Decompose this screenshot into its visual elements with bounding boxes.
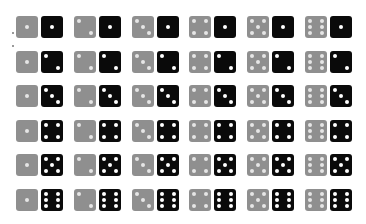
black-die-3 <box>157 85 179 107</box>
pip-icon <box>166 25 170 29</box>
pip-icon <box>141 129 145 133</box>
pip-icon <box>77 192 81 196</box>
pip-icon <box>56 157 60 161</box>
gray-die-4 <box>189 154 211 176</box>
pip-icon <box>114 192 118 196</box>
gray-die-1 <box>16 120 38 142</box>
black-die-1 <box>214 16 236 38</box>
pip-icon <box>281 94 285 98</box>
pip-icon <box>217 157 221 161</box>
pip-icon <box>250 123 254 127</box>
dice-pair <box>74 16 122 38</box>
gray-die-5 <box>247 16 269 38</box>
dice-pair <box>132 154 180 176</box>
pip-icon <box>114 100 118 104</box>
gray-die-3 <box>132 120 154 142</box>
pip-icon <box>160 169 164 173</box>
pip-icon <box>320 192 324 196</box>
pip-icon <box>223 163 227 167</box>
pip-icon <box>204 31 208 35</box>
black-die-6 <box>214 189 236 211</box>
pip-icon <box>172 123 176 127</box>
pip-icon <box>102 157 106 161</box>
pip-icon <box>44 198 48 202</box>
pip-icon <box>160 135 164 139</box>
pip-icon <box>56 123 60 127</box>
pip-icon <box>256 60 260 64</box>
pip-icon <box>308 100 312 104</box>
pip-icon <box>345 192 349 196</box>
pip-icon <box>160 192 164 196</box>
gray-die-2 <box>74 51 96 73</box>
gray-die-6 <box>305 154 327 176</box>
pip-icon <box>25 198 29 202</box>
gray-die-1 <box>16 154 38 176</box>
dice-pair <box>132 51 180 73</box>
pip-icon <box>339 94 343 98</box>
pip-icon <box>102 135 106 139</box>
pip-icon <box>287 198 291 202</box>
pip-icon <box>320 19 324 23</box>
gray-die-1 <box>16 16 38 38</box>
dice-pair <box>74 120 122 142</box>
pip-icon <box>108 25 112 29</box>
black-die-5 <box>272 154 294 176</box>
black-die-5 <box>157 154 179 176</box>
pip-icon <box>287 123 291 127</box>
pip-icon <box>287 204 291 208</box>
gray-die-6 <box>305 16 327 38</box>
pip-icon <box>44 135 48 139</box>
pip-icon <box>333 54 337 58</box>
pip-icon <box>287 100 291 104</box>
pip-icon <box>102 123 106 127</box>
pip-icon <box>147 100 151 104</box>
pip-icon <box>333 135 337 139</box>
pip-icon <box>114 123 118 127</box>
pip-icon <box>25 129 29 133</box>
pip-icon <box>192 66 196 70</box>
dice-pair <box>305 16 353 38</box>
pip-icon <box>204 169 208 173</box>
pip-icon <box>160 198 164 202</box>
pip-icon <box>320 157 324 161</box>
pip-icon <box>287 135 291 139</box>
pip-icon <box>333 157 337 161</box>
black-die-1 <box>157 16 179 38</box>
pip-icon <box>56 66 60 70</box>
pip-icon <box>256 198 260 202</box>
pip-icon <box>204 88 208 92</box>
black-die-6 <box>272 189 294 211</box>
pip-icon <box>320 123 324 127</box>
pip-icon <box>250 157 254 161</box>
pip-icon <box>333 198 337 202</box>
pip-icon <box>217 135 221 139</box>
pip-icon <box>172 169 176 173</box>
pip-icon <box>102 54 106 58</box>
dice-pair <box>189 120 237 142</box>
pip-icon <box>308 169 312 173</box>
pip-icon <box>135 123 139 127</box>
dice-pair <box>16 16 64 38</box>
pip-icon <box>275 169 279 173</box>
pip-icon <box>114 169 118 173</box>
pip-icon <box>102 169 106 173</box>
gray-die-1 <box>16 189 38 211</box>
pip-icon <box>345 100 349 104</box>
pip-icon <box>250 19 254 23</box>
gray-die-3 <box>132 16 154 38</box>
dice-pair <box>189 85 237 107</box>
pip-icon <box>339 163 343 167</box>
gray-die-3 <box>132 85 154 107</box>
pip-icon <box>262 123 266 127</box>
pip-icon <box>204 66 208 70</box>
pip-icon <box>217 169 221 173</box>
pip-icon <box>172 66 176 70</box>
pip-icon <box>141 25 145 29</box>
pip-icon <box>89 66 93 70</box>
pip-icon <box>25 60 29 64</box>
pip-icon <box>320 60 324 64</box>
pip-icon <box>308 192 312 196</box>
black-die-4 <box>272 120 294 142</box>
dice-pair <box>247 189 295 211</box>
gray-die-1 <box>16 85 38 107</box>
